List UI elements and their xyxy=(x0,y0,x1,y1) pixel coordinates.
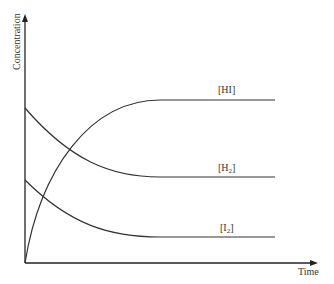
concentration-time-chart: [HI] [H2] [I2] Time Concentration xyxy=(0,0,334,284)
i2-label: [I2] xyxy=(220,222,234,235)
x-axis-label: Time xyxy=(298,266,319,277)
hi-curve xyxy=(25,100,275,263)
h2-label: [H2] xyxy=(218,162,235,175)
y-axis-label: Concentration xyxy=(11,13,22,70)
y-axis-arrow-icon xyxy=(22,14,28,22)
i2-curve xyxy=(25,180,275,237)
h2-curve xyxy=(25,108,275,177)
hi-label: [HI] xyxy=(218,84,235,95)
